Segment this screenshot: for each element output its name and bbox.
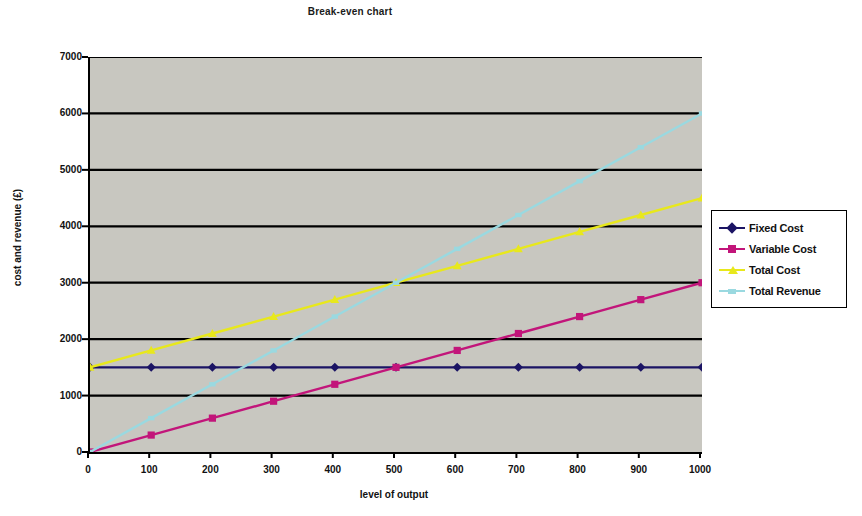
data-point	[514, 363, 523, 372]
data-point	[147, 363, 156, 372]
y-tick-label: 1000	[24, 391, 82, 401]
x-tick-label: 400	[311, 464, 355, 475]
data-point	[90, 450, 93, 452]
data-point	[515, 330, 522, 337]
data-point	[576, 179, 582, 183]
gridlines	[90, 57, 702, 396]
y-tick-label: 7000	[24, 52, 82, 62]
x-tick-label: 700	[494, 464, 538, 475]
legend-swatch-icon	[719, 285, 745, 297]
data-point	[208, 363, 217, 372]
data-point	[636, 363, 645, 372]
data-point	[270, 348, 276, 352]
legend-swatch-icon	[719, 264, 745, 276]
data-point	[332, 314, 338, 318]
legend-item-total-cost[interactable]: Total Cost	[716, 259, 842, 280]
data-point	[699, 111, 702, 115]
x-tick-label: 300	[250, 464, 294, 475]
data-point	[575, 363, 584, 372]
data-point	[698, 279, 702, 286]
legend-swatch-icon	[719, 243, 745, 255]
x-axis-tick-labels: 01002003004005006007008009001000	[88, 464, 708, 480]
legend-swatch-icon	[719, 222, 745, 234]
x-tick-label: 1000	[678, 464, 722, 475]
y-tick-label: 3000	[24, 278, 82, 288]
chart-legend: Fixed CostVariable CostTotal CostTotal R…	[711, 210, 847, 308]
chart-title: Break-even chart	[0, 6, 700, 17]
y-tick-label: 4000	[24, 221, 82, 231]
legend-label: Variable Cost	[749, 243, 816, 255]
x-tick-label: 600	[433, 464, 477, 475]
data-point	[453, 363, 462, 372]
data-point	[331, 381, 338, 388]
data-point	[148, 431, 155, 438]
data-point	[698, 363, 703, 372]
x-tick-label: 100	[127, 464, 171, 475]
x-tick-label: 500	[372, 464, 416, 475]
data-point	[209, 382, 215, 386]
legend-label: Total Revenue	[749, 285, 821, 297]
legend-item-total-revenue[interactable]: Total Revenue	[716, 280, 842, 301]
data-point	[330, 363, 339, 372]
legend-label: Total Cost	[749, 264, 800, 276]
data-point	[393, 281, 399, 285]
data-point	[638, 145, 644, 149]
data-point	[270, 398, 277, 405]
data-point	[637, 296, 644, 303]
x-tick-label: 900	[617, 464, 661, 475]
data-point	[576, 313, 583, 320]
y-axis-tick-labels: 01000200030004000500060007000	[20, 0, 82, 516]
data-point	[454, 247, 460, 251]
y-tick-label: 0	[24, 447, 82, 457]
y-tick-label: 6000	[24, 108, 82, 118]
legend-label: Fixed Cost	[749, 222, 803, 234]
plot-area	[88, 57, 702, 454]
data-point	[698, 193, 702, 201]
legend-item-fixed-cost[interactable]: Fixed Cost	[716, 217, 842, 238]
break-even-chart: Break-even chart cost and revenue (£) 01…	[0, 0, 862, 516]
data-point	[392, 364, 399, 371]
data-point	[454, 347, 461, 354]
x-tick-label: 0	[66, 464, 110, 475]
y-tick-label: 2000	[24, 334, 82, 344]
data-point	[269, 363, 278, 372]
data-point	[515, 213, 521, 217]
x-tick-label: 800	[556, 464, 600, 475]
x-axis-title: level of output	[88, 489, 700, 500]
data-point	[148, 416, 154, 420]
x-tick-label: 200	[188, 464, 232, 475]
y-tick-label: 5000	[24, 165, 82, 175]
data-point	[209, 415, 216, 422]
legend-item-variable-cost[interactable]: Variable Cost	[716, 238, 842, 259]
plot-svg	[90, 57, 702, 452]
